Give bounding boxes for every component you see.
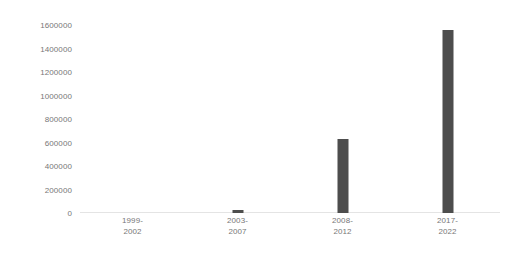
y-axis-tick-label: 400000 xyxy=(0,162,72,171)
plot-area xyxy=(80,8,500,213)
bar-2008-2012 xyxy=(337,139,348,213)
bar-chart: 1600000 1400000 1200000 1000000 800000 6… xyxy=(0,0,510,257)
bar-slot xyxy=(395,8,500,213)
y-axis-tick-label: 1200000 xyxy=(0,68,72,77)
x-axis-tick-line-1: 2017- xyxy=(395,216,500,227)
x-axis-tick-label: 2008- 2012 xyxy=(290,216,395,237)
x-axis-tick-label: 2003- 2007 xyxy=(185,216,290,237)
y-axis-tick-label: 600000 xyxy=(0,138,72,147)
bar-slot xyxy=(80,8,185,213)
x-axis-tick-label: 1999- 2002 xyxy=(80,216,185,237)
x-axis-tick-line-2: 2022 xyxy=(395,227,500,238)
bar-slot xyxy=(185,8,290,213)
y-axis-tick-label: 800000 xyxy=(0,115,72,124)
y-axis-tick-label: 1600000 xyxy=(0,21,72,30)
x-axis: 1999- 2002 2003- 2007 2008- 2012 2017- 2… xyxy=(80,216,500,250)
x-axis-tick-line-2: 2007 xyxy=(185,227,290,238)
y-axis: 1600000 1400000 1200000 1000000 800000 6… xyxy=(0,0,80,257)
y-axis-tick-label: 0 xyxy=(0,209,72,218)
x-axis-tick-line-1: 1999- xyxy=(80,216,185,227)
y-axis-tick-label: 1400000 xyxy=(0,44,72,53)
bar-2017-2022 xyxy=(442,30,453,213)
x-axis-tick-line-2: 2002 xyxy=(80,227,185,238)
y-axis-tick-label: 200000 xyxy=(0,185,72,194)
y-axis-tick-label: 1000000 xyxy=(0,91,72,100)
x-axis-tick-line-1: 2003- xyxy=(185,216,290,227)
bar-slot xyxy=(290,8,395,213)
x-axis-tick-line-1: 2008- xyxy=(290,216,395,227)
bar-2003-2007 xyxy=(232,210,243,213)
x-axis-tick-label: 2017- 2022 xyxy=(395,216,500,237)
x-axis-tick-line-2: 2012 xyxy=(290,227,395,238)
